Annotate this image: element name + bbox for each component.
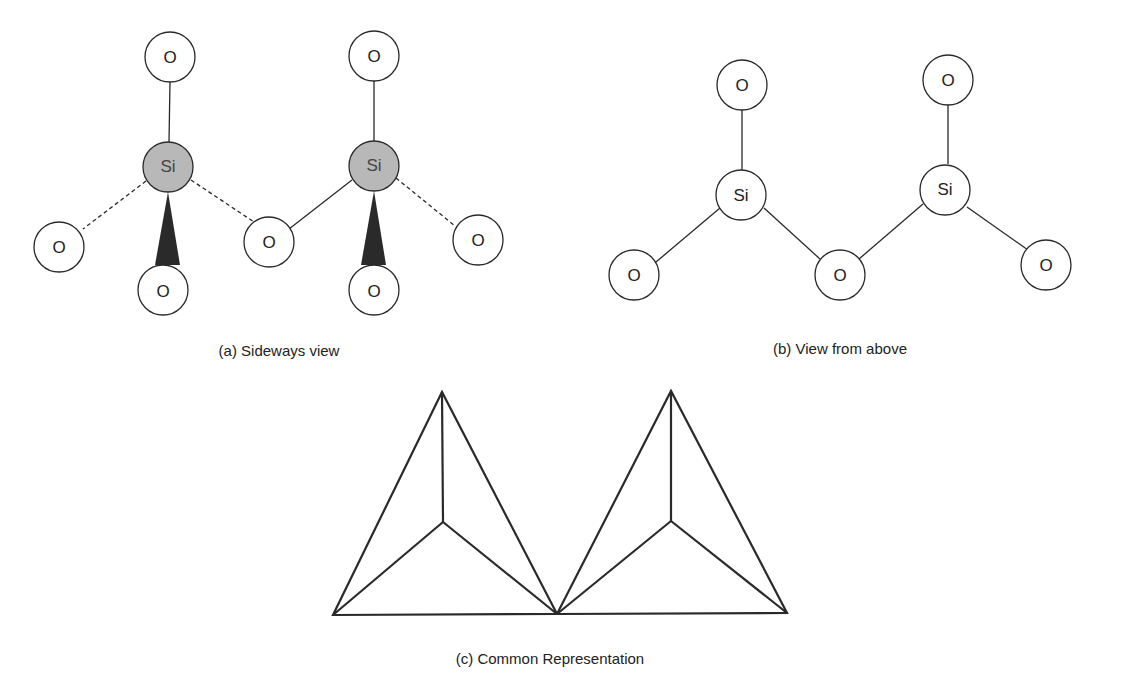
tetrahedron-right-edge-to-left <box>557 521 671 614</box>
label-o-left: O <box>52 238 65 257</box>
panel-b-view-from-above <box>609 55 1071 300</box>
label-o-middle: O <box>833 266 846 285</box>
label-o-top2: O <box>941 71 954 90</box>
wedge-bond-si1-o-bottom <box>155 192 180 265</box>
bond-si1-o-left <box>656 208 720 262</box>
bond-si2-o-middle <box>859 204 923 259</box>
caption-c: (c) Common Representation <box>456 650 644 667</box>
bond-si1-o-top <box>169 82 170 142</box>
bond-si2-o-middle <box>289 180 352 229</box>
panel-a-sideways-view <box>34 31 503 315</box>
tetrahedron-left-vertical-edge <box>442 392 443 522</box>
panel-c-common-representation <box>333 391 787 615</box>
caption-b: (b) View from above <box>773 340 907 357</box>
label-o-bottom1: O <box>156 282 169 301</box>
wedge-bond-si2-o-bottom <box>361 191 386 265</box>
label-si1: Si <box>160 157 175 176</box>
bond-si1-o-middle-dashed <box>191 180 263 228</box>
label-si2: Si <box>937 180 952 199</box>
tetrahedron-right-edge-to-right <box>671 521 787 613</box>
label-o-top1: O <box>735 76 748 95</box>
tetrahedron-left-edge-to-left <box>333 522 443 615</box>
label-o-top2: O <box>367 47 380 66</box>
label-o-bottom2: O <box>367 282 380 301</box>
label-o-middle: O <box>262 233 275 252</box>
bond-si2-o-right <box>967 207 1028 250</box>
tetrahedron-left-edge-to-right <box>443 522 557 614</box>
bond-si1-o-left-dashed <box>83 181 146 229</box>
caption-a: (a) Sideways view <box>219 342 340 359</box>
label-o-right: O <box>471 231 484 250</box>
tetrahedron-left-outline <box>333 392 557 615</box>
label-o-right: O <box>1039 256 1052 275</box>
label-o-top1: O <box>163 48 176 67</box>
label-si2: Si <box>366 156 381 175</box>
bond-si2-o-right-dashed <box>396 178 455 226</box>
label-o-left: O <box>627 266 640 285</box>
label-si1: Si <box>733 186 748 205</box>
bond-si1-o-middle <box>764 208 820 259</box>
silicate-diagram: O Si O O O Si O O O O Si O O Si O O <box>0 0 1139 699</box>
